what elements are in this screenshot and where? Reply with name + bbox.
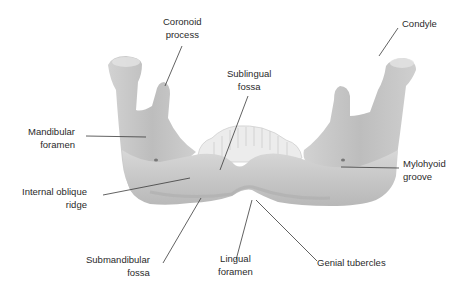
right-foramen-mark (341, 159, 345, 162)
label-sublingual-fossa: Sublingual fossa (227, 67, 271, 93)
label-mandibular-foramen: Mandibular foramen (28, 125, 75, 151)
label-internal-oblique-ridge: Internal oblique ridge (22, 185, 87, 211)
label-coronoid-process: Coronoid process (163, 15, 202, 41)
left-foramen-mark (154, 159, 158, 162)
label-lingual-foramen: Lingual foramen (218, 252, 253, 278)
label-condyle: Condyle (402, 17, 437, 30)
label-submandibular-fossa: Submandibular fossa (86, 253, 150, 279)
label-genial-tubercles: Genial tubercles (317, 256, 386, 269)
label-mylohyoid-groove: Mylohyoid groove (403, 157, 446, 183)
